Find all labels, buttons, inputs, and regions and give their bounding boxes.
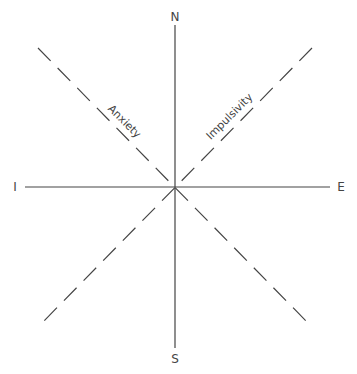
axis-label-south: S: [171, 352, 179, 366]
axis-label-north: N: [171, 10, 180, 24]
axes-diagram: N S I E Anxiety Impulsivity: [0, 0, 357, 374]
axis-label-east: E: [337, 180, 345, 194]
axis-label-west: I: [13, 180, 17, 194]
diagonal-label-impulsivity: Impulsivity: [204, 90, 256, 142]
diagonal-label-anxiety: Anxiety: [105, 102, 144, 141]
